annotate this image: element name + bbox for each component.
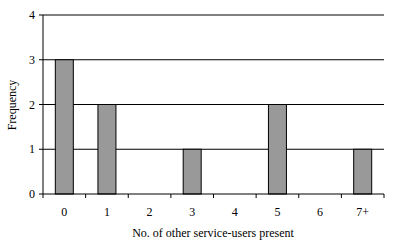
y-tick-label: 0 bbox=[29, 187, 35, 201]
bar-5 bbox=[268, 105, 286, 195]
x-tick-label: 3 bbox=[189, 205, 195, 219]
x-tick-label: 4 bbox=[232, 205, 238, 219]
x-tick-label: 7+ bbox=[356, 205, 369, 219]
gridlines bbox=[43, 15, 384, 149]
x-tick-label: 6 bbox=[317, 205, 323, 219]
bar-0 bbox=[55, 60, 73, 194]
y-tick-label: 4 bbox=[29, 8, 35, 22]
x-tick-label: 2 bbox=[147, 205, 153, 219]
x-tick-label: 5 bbox=[274, 205, 280, 219]
bar-1 bbox=[98, 105, 116, 195]
y-tick-label: 1 bbox=[29, 142, 35, 156]
x-axis-title: No. of other service-users present bbox=[132, 226, 294, 240]
x-tick-labels: 01234567+ bbox=[61, 205, 369, 219]
y-tick-label: 3 bbox=[29, 53, 35, 67]
x-tick-label: 1 bbox=[104, 205, 110, 219]
y-tick-labels: 01234 bbox=[29, 8, 35, 201]
x-tick-label: 0 bbox=[61, 205, 67, 219]
y-tick-label: 2 bbox=[29, 98, 35, 112]
y-axis-title: Frequency bbox=[5, 80, 19, 131]
bar-chart: 01234 01234567+ Frequency No. of other s… bbox=[0, 0, 394, 251]
bar-7+ bbox=[354, 149, 372, 194]
axes bbox=[39, 15, 384, 198]
bars bbox=[55, 60, 371, 194]
bar-3 bbox=[183, 149, 201, 194]
